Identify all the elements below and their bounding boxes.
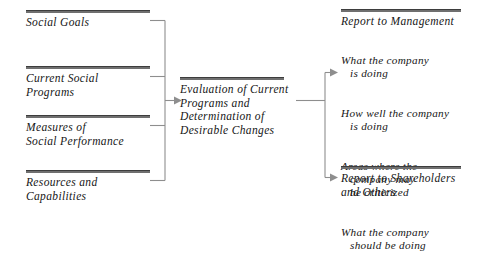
arrowhead-to-report-to-shareholders (330, 174, 338, 182)
list-item-line-2: should be doing (341, 239, 481, 252)
list-item-line-1: What the company (341, 226, 429, 238)
list-item: What the company should be doing (341, 213, 481, 255)
arrowhead-to-report-to-management (330, 69, 338, 77)
arrowhead-into-process (174, 97, 182, 105)
